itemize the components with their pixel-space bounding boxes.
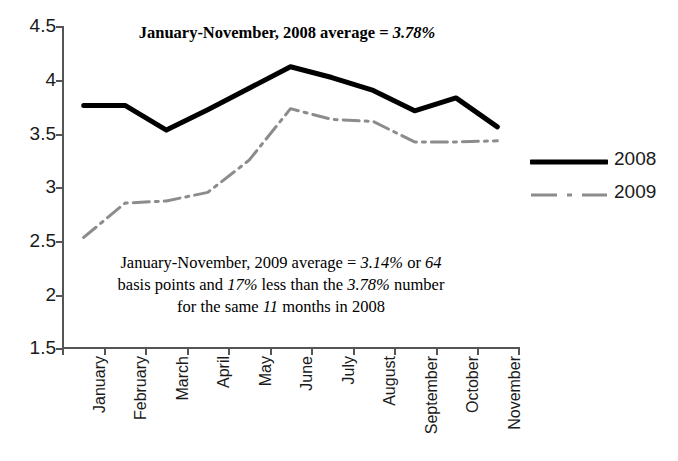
x-tick-mark bbox=[145, 347, 147, 355]
annotation-value: 11 bbox=[263, 297, 278, 316]
y-tick-mark bbox=[56, 187, 63, 189]
x-label-august: August bbox=[381, 356, 399, 406]
x-tick-mark bbox=[187, 347, 189, 355]
y-tick-mark bbox=[56, 241, 63, 243]
y-tick-label-2-5: 2.5 bbox=[2, 230, 56, 252]
annotation-line-1: January-November, 2009 average = 3.14% o… bbox=[66, 252, 496, 274]
legend-label-2008: 2008 bbox=[614, 148, 656, 170]
annotation-text: less than the bbox=[257, 275, 347, 294]
x-axis-labels: January February March April May June Ju… bbox=[63, 356, 518, 461]
x-label-january: January bbox=[91, 356, 109, 413]
annotation-text: basis points and bbox=[118, 275, 228, 294]
annotation-value: 3.14% bbox=[360, 253, 403, 272]
y-tick-label-4: 4 bbox=[2, 69, 56, 91]
x-tick-mark bbox=[518, 347, 520, 355]
annotation-text: January-November, 2009 average = bbox=[120, 253, 360, 272]
x-label-april: April bbox=[215, 356, 233, 388]
x-tick-mark bbox=[477, 347, 479, 355]
annotation-text: months in 2008 bbox=[278, 297, 385, 316]
x-label-march: March bbox=[174, 356, 192, 400]
series-line-2009 bbox=[84, 109, 498, 238]
x-label-june: June bbox=[298, 356, 316, 391]
annotation-value: 3.78% bbox=[347, 275, 390, 294]
x-tick-mark bbox=[62, 347, 64, 355]
x-tick-mark bbox=[436, 347, 438, 355]
y-tick-label-2: 2 bbox=[2, 284, 56, 306]
x-label-september: September bbox=[423, 356, 441, 434]
x-tick-mark bbox=[311, 347, 313, 355]
annotation-text: number bbox=[390, 275, 445, 294]
chart-legend: 2008 2009 bbox=[530, 148, 678, 214]
annotation-value: 17% bbox=[227, 275, 257, 294]
y-axis-labels: 4.5 4 3.5 3 2.5 2 1.5 bbox=[0, 0, 56, 461]
legend-swatch-2009 bbox=[530, 188, 608, 202]
x-label-february: February bbox=[132, 356, 150, 420]
x-tick-mark bbox=[270, 347, 272, 355]
legend-label-2009: 2009 bbox=[614, 181, 656, 203]
x-label-october: October bbox=[464, 356, 482, 413]
x-tick-mark bbox=[353, 347, 355, 355]
y-tick-mark bbox=[56, 26, 63, 28]
x-label-may: May bbox=[257, 356, 275, 386]
x-tick-mark bbox=[394, 347, 396, 355]
x-tick-mark bbox=[104, 347, 106, 355]
y-tick-label-3-5: 3.5 bbox=[2, 123, 56, 145]
annotation-text: for the same bbox=[177, 297, 263, 316]
y-tick-mark bbox=[56, 80, 63, 82]
annotation-line-3: for the same 11 months in 2008 bbox=[66, 296, 496, 318]
legend-swatch-2008 bbox=[530, 155, 608, 169]
chart-page: January-November, 2008 average = 3.78% 4… bbox=[0, 0, 678, 461]
y-tick-mark bbox=[56, 295, 63, 297]
y-tick-mark bbox=[56, 134, 63, 136]
series-line-2008 bbox=[84, 67, 498, 130]
x-label-november: November bbox=[506, 356, 524, 430]
x-label-july: July bbox=[340, 356, 358, 384]
annotation-text: or bbox=[403, 253, 425, 272]
y-tick-label-4-5: 4.5 bbox=[2, 15, 56, 37]
y-tick-label-3: 3 bbox=[2, 176, 56, 198]
annotation-line-2: basis points and 17% less than the 3.78%… bbox=[66, 274, 496, 296]
y-tick-label-1-5: 1.5 bbox=[2, 337, 56, 359]
annotation-value: 64 bbox=[425, 253, 442, 272]
chart-annotation: January-November, 2009 average = 3.14% o… bbox=[66, 252, 496, 317]
legend-item-2009[interactable]: 2009 bbox=[530, 181, 678, 214]
x-tick-mark bbox=[228, 347, 230, 355]
legend-item-2008[interactable]: 2008 bbox=[530, 148, 678, 181]
